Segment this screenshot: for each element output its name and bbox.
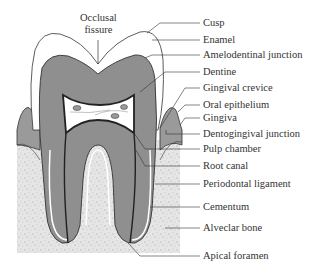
label-pulp-chamber: Pulp chamber — [203, 143, 261, 155]
label-dentine: Dentine — [203, 66, 236, 78]
label-gingival-crevice: Gingival crevice — [203, 82, 273, 94]
occlusal-label-line2: fissure — [80, 24, 117, 36]
label-apical-foramen: Apical foramen — [203, 250, 269, 262]
occlusal-fissure-label: Occlusal fissure — [80, 12, 117, 36]
occlusal-label-line1: Occlusal — [80, 12, 117, 24]
label-amelodentinal-junction: Amelodentinal junction — [203, 49, 302, 61]
label-dentogingival-junction: Dentogingival junction — [203, 128, 300, 140]
gingiva-right — [160, 108, 182, 150]
label-gingiva: Gingiva — [203, 112, 237, 124]
label-enamel: Enamel — [203, 34, 235, 46]
label-oral-epithelium: Oral epithelium — [203, 99, 269, 111]
label-cusp: Cusp — [203, 17, 225, 29]
label-cementum: Cementum — [203, 201, 249, 213]
label-root-canal: Root canal — [203, 160, 248, 172]
label-periodontal-ligament: Periodontal ligament — [203, 178, 291, 190]
label-alveolar-bone: Alveclar bone — [203, 222, 262, 234]
